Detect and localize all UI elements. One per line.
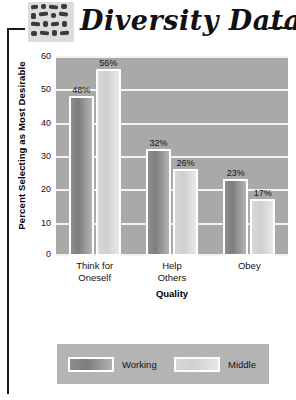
x-category-help-others: Help Others	[133, 260, 210, 283]
bar-group-obey: 23% 17%	[211, 56, 288, 256]
bar-groups: 48% 56% 32% 26% 23%	[56, 56, 288, 256]
abstract-marks-logo-icon	[28, 2, 74, 42]
bar-working-think-for-oneself[interactable]: 48%	[69, 96, 94, 256]
x-category-line: Oneself	[56, 272, 133, 284]
x-axis-categories: Think for Oneself Help Others Obey	[56, 260, 288, 283]
bar-working-help-others[interactable]: 32%	[146, 149, 171, 256]
x-category-line: Obey	[211, 260, 288, 272]
x-category-line: Think for	[56, 260, 133, 272]
bar-value-label: 26%	[176, 158, 194, 168]
bar-working-obey[interactable]: 23%	[223, 179, 248, 256]
x-category-obey: Obey	[211, 260, 288, 283]
bar-chart: Percent Selecting as Most Desirable 60 5…	[0, 44, 296, 344]
bar-middle-help-others[interactable]: 26%	[173, 169, 198, 256]
x-category-line: Help	[133, 260, 210, 272]
legend-label-working: Working	[122, 359, 157, 370]
x-axis-label: Quality	[56, 288, 288, 299]
page-title: Diversity Data	[80, 1, 270, 43]
legend-swatch-working-icon	[68, 357, 114, 372]
y-tick-60: 60	[41, 51, 51, 61]
x-category-think-for-oneself: Think for Oneself	[56, 260, 133, 283]
bar-group-help-others: 32% 26%	[133, 56, 210, 256]
y-tick-10: 10	[41, 218, 51, 228]
legend-item-working[interactable]: Working	[57, 357, 163, 372]
y-tick-40: 40	[41, 118, 51, 128]
legend-item-middle[interactable]: Middle	[163, 357, 269, 372]
chart-page: Diversity Data Percent Selecting as Most…	[0, 0, 296, 400]
bar-middle-obey[interactable]: 17%	[250, 199, 275, 256]
bar-value-label: 32%	[149, 138, 167, 148]
plot-area: 60 50 40 30 20 10 0 48% 56% 32%	[56, 56, 288, 256]
bar-middle-think-for-oneself[interactable]: 56%	[96, 69, 121, 256]
y-axis-label: Percent Selecting as Most Desirable	[16, 41, 27, 251]
chart-header: Diversity Data	[0, 0, 296, 44]
legend-label-middle: Middle	[228, 359, 256, 370]
bar-value-label: 56%	[99, 58, 117, 68]
x-category-line: Others	[133, 272, 210, 284]
bar-value-label: 48%	[72, 85, 90, 95]
legend-swatch-middle-icon	[174, 357, 220, 372]
y-tick-50: 50	[41, 84, 51, 94]
y-tick-30: 30	[41, 151, 51, 161]
y-tick-0: 0	[46, 249, 51, 259]
y-tick-20: 20	[41, 184, 51, 194]
bar-value-label: 23%	[227, 168, 245, 178]
bar-value-label: 17%	[254, 188, 272, 198]
bar-group-think-for-oneself: 48% 56%	[56, 56, 133, 256]
chart-legend: Working Middle	[57, 344, 269, 384]
